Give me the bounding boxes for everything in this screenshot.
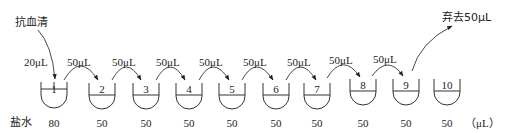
tube-8-saline: 50	[353, 117, 373, 129]
tube-7-saline: 50	[307, 117, 327, 129]
transfer-label-8: 50μL	[373, 53, 397, 65]
tube-4-saline: 50	[179, 117, 199, 129]
transfer-label-3: 50μL	[156, 56, 180, 68]
transfer-label-5: 50μL	[243, 56, 267, 68]
initial-transfer-label: 20μL	[24, 56, 48, 68]
transfer-arrow-6-7	[286, 67, 316, 80]
transfer-label-4: 50μL	[199, 56, 223, 68]
tube-2-number: 2	[92, 83, 112, 95]
tube-3-number: 3	[136, 83, 156, 95]
tube-10-saline: 50	[437, 117, 457, 129]
tube-6-saline: 50	[266, 117, 286, 129]
tube-7-number: 7	[307, 83, 327, 95]
antiserum-arrow	[38, 30, 55, 79]
transfer-arrow-7-8	[327, 65, 360, 78]
transfer-arrow-1-2	[64, 66, 98, 80]
transfer-label-2: 50μL	[112, 56, 136, 68]
transfer-arrow-2-3	[112, 67, 141, 80]
tube-2-saline: 50	[92, 117, 112, 129]
tube-1-number: 1	[44, 83, 64, 95]
tube-5-number: 5	[222, 83, 242, 95]
tube-3-saline: 50	[136, 117, 156, 129]
tube-8-number: 8	[353, 79, 373, 91]
antiserum-label: 抗血清	[15, 17, 48, 29]
tube-9-saline: 50	[396, 117, 416, 129]
transfer-arrow-3-4	[156, 67, 185, 80]
tube-9-number: 9	[396, 79, 416, 91]
transfer-arrow-5-6	[242, 67, 273, 80]
tube-1-saline: 80	[44, 117, 64, 129]
transfer-label-1: 50μL	[67, 56, 91, 68]
tube-6-number: 6	[266, 83, 286, 95]
unit-label: （μL）	[465, 117, 500, 129]
transfer-arrow-8-9	[372, 65, 403, 76]
transfer-label-6: 50μL	[287, 56, 311, 68]
tube-10-number: 10	[437, 79, 457, 91]
discard-arrow	[412, 26, 452, 71]
transfer-label-7: 50μL	[329, 54, 353, 66]
saline-row-label: 盐水	[10, 117, 32, 129]
tube-5-saline: 50	[222, 117, 242, 129]
discard-label: 弃去50μL	[442, 12, 491, 24]
transfer-arrow-4-5	[199, 67, 229, 80]
tube-4-number: 4	[179, 83, 199, 95]
